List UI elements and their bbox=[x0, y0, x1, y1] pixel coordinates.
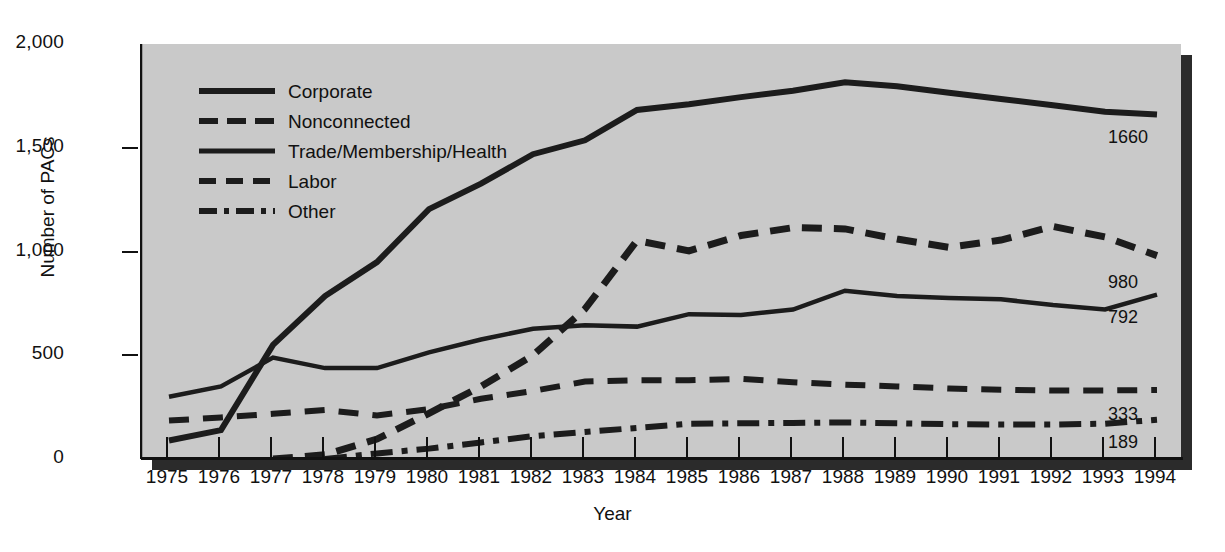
legend-item-corporate: Corporate bbox=[197, 78, 507, 104]
y-tick-mark bbox=[122, 354, 138, 356]
solid-thick-line-icon bbox=[197, 81, 277, 101]
x-axis-line bbox=[141, 457, 1183, 460]
legend-label-nonconnected: Nonconnected bbox=[288, 112, 411, 131]
x-tick-mark bbox=[946, 437, 948, 459]
end-label-labor: 333 bbox=[1108, 404, 1138, 425]
x-tick-mark bbox=[1154, 437, 1156, 459]
y-tick-mark bbox=[122, 251, 138, 253]
legend-label-corporate: Corporate bbox=[288, 82, 373, 101]
series-line-other bbox=[325, 420, 1157, 459]
x-tick-mark bbox=[478, 437, 480, 459]
y-tick-label: 500 bbox=[32, 342, 64, 364]
x-tick-mark bbox=[426, 437, 428, 459]
x-tick-mark bbox=[270, 437, 272, 459]
end-label-trade-membership-health: 792 bbox=[1108, 307, 1138, 328]
end-label-other: 189 bbox=[1108, 432, 1138, 453]
x-tick-mark bbox=[738, 437, 740, 459]
x-tick-mark bbox=[894, 437, 896, 459]
x-tick-mark bbox=[1102, 437, 1104, 459]
long-dash-line-icon bbox=[197, 111, 277, 131]
x-tick-mark bbox=[374, 437, 376, 459]
x-tick-mark bbox=[166, 437, 168, 459]
x-tick-mark bbox=[582, 437, 584, 459]
legend-item-nonconnected: Nonconnected bbox=[197, 108, 507, 134]
end-label-corporate: 1660 bbox=[1108, 127, 1148, 148]
x-tick-mark bbox=[998, 437, 1000, 459]
y-tick-mark bbox=[122, 147, 138, 149]
x-tick-mark bbox=[322, 437, 324, 459]
x-tick-mark bbox=[1050, 437, 1052, 459]
x-tick-mark bbox=[790, 437, 792, 459]
y-tick-label: 0 bbox=[53, 446, 64, 468]
end-label-nonconnected: 980 bbox=[1108, 272, 1138, 293]
x-tick-label: 1994 bbox=[1120, 466, 1190, 488]
legend-label-trade: Trade/Membership/Health bbox=[288, 142, 507, 161]
y-axis-line bbox=[140, 44, 142, 459]
y-axis-title: Number of PACs bbox=[37, 112, 59, 302]
x-tick-mark bbox=[218, 437, 220, 459]
legend: Corporate Nonconnected Trade/Membership/… bbox=[197, 78, 507, 228]
series-line-labor bbox=[169, 379, 1157, 421]
x-tick-mark bbox=[686, 437, 688, 459]
x-axis-title: Year bbox=[0, 503, 1225, 525]
x-tick-mark bbox=[634, 437, 636, 459]
legend-item-labor: Labor bbox=[197, 168, 507, 194]
x-tick-mark bbox=[530, 437, 532, 459]
solid-thin-line-icon bbox=[197, 141, 277, 161]
medium-dash-line-icon bbox=[197, 171, 277, 191]
legend-item-other: Other bbox=[197, 198, 507, 224]
x-tick-mark bbox=[842, 437, 844, 459]
chart-figure: 05001,0001,5002,000 19751976197719781979… bbox=[0, 0, 1225, 552]
legend-item-trade: Trade/Membership/Health bbox=[197, 138, 507, 164]
dash-dot-line-icon bbox=[197, 201, 277, 221]
legend-label-other: Other bbox=[288, 202, 336, 221]
y-tick-label: 2,000 bbox=[15, 31, 64, 53]
legend-label-labor: Labor bbox=[288, 172, 337, 191]
